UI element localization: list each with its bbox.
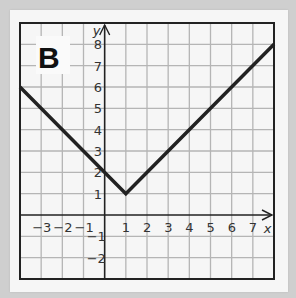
x-tick-label: 1 bbox=[122, 220, 130, 235]
y-tick-label: 8 bbox=[94, 37, 102, 52]
y-tick-label: 5 bbox=[94, 101, 102, 116]
x-tick-label: 3 bbox=[164, 220, 172, 235]
y-tick-label: 1 bbox=[94, 187, 102, 202]
y-tick-label: −1 bbox=[87, 229, 106, 244]
x-tick-label: 2 bbox=[143, 220, 151, 235]
y-tick-label: 7 bbox=[94, 59, 102, 74]
x-tick-label: −2 bbox=[53, 220, 72, 235]
x-tick-label: −3 bbox=[32, 220, 51, 235]
coordinate-plane-chart: −3−2−11234567−2−112345678 B x y bbox=[0, 0, 296, 298]
y-tick-label: 3 bbox=[94, 144, 102, 159]
x-tick-label: 4 bbox=[185, 220, 193, 235]
y-tick-label: 6 bbox=[94, 80, 102, 95]
x-tick-label: 5 bbox=[207, 220, 215, 235]
y-tick-label: 4 bbox=[94, 123, 102, 138]
x-tick-label: 7 bbox=[249, 220, 257, 235]
panel-label: B bbox=[38, 41, 60, 74]
x-tick-label: 6 bbox=[228, 220, 236, 235]
x-axis-label: x bbox=[263, 221, 272, 236]
y-axis-label: y bbox=[92, 23, 101, 38]
y-tick-label: −2 bbox=[87, 251, 106, 266]
